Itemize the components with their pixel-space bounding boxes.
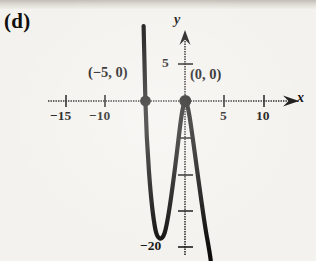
- point-label-0-0: (0, 0): [190, 66, 221, 83]
- point-dot-0-0: [179, 95, 191, 107]
- x-axis: [48, 96, 299, 107]
- graph-canvas: [0, 0, 316, 261]
- cubic-curve-path: [144, 26, 211, 261]
- y-tick-label-5: 5: [162, 55, 169, 71]
- panel-label: (d): [4, 9, 31, 34]
- x-tick-label-5: 5: [220, 108, 227, 124]
- curve-cubic: [144, 26, 211, 261]
- figure-panel: (d) x y −15 −10 5 10 5 −20 (−5, 0) (0, 0…: [0, 0, 316, 261]
- x-tick-label-minus15: −15: [50, 108, 71, 124]
- point-dot-minus5-0: [140, 96, 151, 107]
- y-axis-arrow-icon: [180, 30, 191, 45]
- x-tick-label-10: 10: [256, 108, 270, 124]
- y-tick-label-minus20: −20: [140, 238, 161, 254]
- y-axis-label: y: [174, 12, 180, 28]
- point-label-minus5-0: (−5, 0): [88, 64, 128, 81]
- x-axis-label: x: [297, 90, 304, 106]
- x-tick-label-minus10: −10: [89, 108, 110, 124]
